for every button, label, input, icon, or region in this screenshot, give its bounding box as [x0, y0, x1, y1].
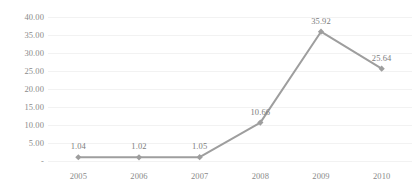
- y-axis-tick-label: 40.00: [0, 12, 44, 22]
- data-point-label: 10.66: [251, 107, 271, 117]
- y-axis-tick-label: 35.00: [0, 30, 44, 40]
- y-axis-tick-label: 25.00: [0, 66, 44, 76]
- data-point-label: 35.92: [311, 16, 331, 26]
- x-axis-tick-label: 2005: [70, 171, 87, 181]
- plot-area: 1.041.021.0510.6635.9225.64: [48, 17, 412, 161]
- y-axis-tick-label: -: [0, 156, 44, 166]
- y-axis-tick-label: 30.00: [0, 48, 44, 58]
- data-point-marker: [75, 154, 81, 160]
- y-axis-tick-label: 15.00: [0, 102, 44, 112]
- data-point-label: 1.02: [131, 141, 146, 151]
- x-axis-tick-label: 2009: [312, 171, 329, 181]
- data-point-marker: [136, 154, 142, 160]
- data-point-label: 1.04: [71, 141, 86, 151]
- y-axis-tick-label: 10.00: [0, 120, 44, 130]
- y-axis: 40.0035.0030.0025.0020.0015.0010.005.00-: [0, 0, 44, 191]
- x-axis-tick-label: 2008: [252, 171, 269, 181]
- y-axis-tick-label: 20.00: [0, 84, 44, 94]
- line-chart: 40.0035.0030.0025.0020.0015.0010.005.00-…: [0, 0, 414, 191]
- x-axis: 200520062007200820092010: [48, 171, 412, 185]
- x-axis-tick-label: 2007: [191, 171, 208, 181]
- data-point-label: 25.64: [372, 53, 392, 63]
- series-polyline: [78, 32, 381, 158]
- series-line: [48, 17, 412, 161]
- y-axis-tick-label: 5.00: [0, 138, 44, 148]
- x-axis-tick-label: 2010: [373, 171, 390, 181]
- data-point-label: 1.05: [192, 141, 207, 151]
- x-axis-tick-label: 2006: [130, 171, 147, 181]
- gridline: [48, 161, 412, 162]
